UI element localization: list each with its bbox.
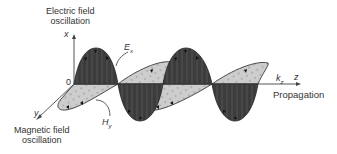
- magnetic-title-line2: oscillation: [14, 135, 70, 145]
- magnetic-field-title: Magnetic field oscillation: [14, 125, 70, 145]
- electric-title-line2: oscillation: [46, 16, 95, 26]
- hy-leader-line: [96, 100, 110, 116]
- e-lobe-1: [74, 48, 118, 84]
- hy-label: Hy: [102, 117, 112, 131]
- e-lobe-2: [118, 84, 163, 121]
- z-axis-arrow-icon: [296, 82, 301, 86]
- h-lobe-4: [212, 62, 268, 84]
- h-lobe-1: [58, 84, 118, 110]
- e-lobe-4: [212, 84, 258, 121]
- propagation-label: Propagation: [273, 90, 324, 100]
- x-axis-label: x: [64, 29, 69, 39]
- y-axis-label: y: [34, 108, 39, 118]
- z-axis-label: z: [294, 72, 299, 82]
- ex-label: Ex: [124, 42, 133, 56]
- x-axis-arrow-icon: [72, 34, 76, 39]
- e-lobe-3: [163, 48, 212, 84]
- h-lobe-2: [118, 62, 170, 84]
- kz-label: kz: [276, 73, 284, 87]
- origin-label: 0: [66, 77, 71, 87]
- electric-field-title: Electric field oscillation: [46, 6, 95, 26]
- electric-title-line1: Electric field: [46, 6, 95, 16]
- magnetic-title-line1: Magnetic field: [14, 125, 70, 135]
